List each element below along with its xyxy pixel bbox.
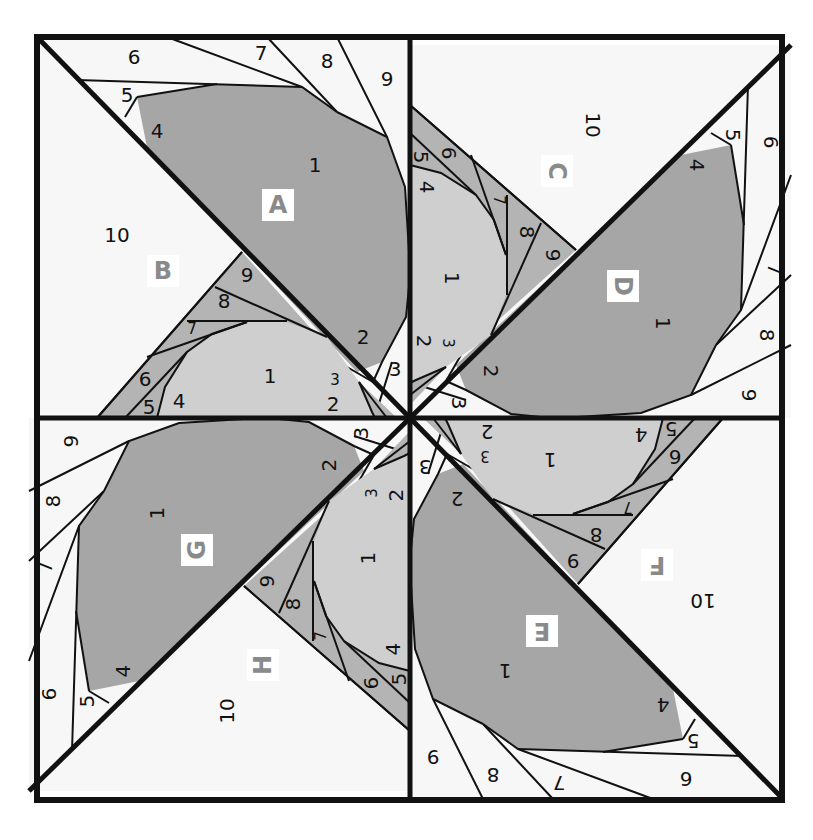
piece-number: 4 xyxy=(685,159,709,172)
piece-number: 2 xyxy=(384,489,408,502)
piece-number: 9 xyxy=(541,249,565,262)
section-letter: D xyxy=(609,276,637,296)
quadrant-top-left xyxy=(37,37,410,418)
section-letter: G xyxy=(183,540,211,560)
piece-number: 7 xyxy=(33,561,57,574)
piece-number: 8 xyxy=(41,495,65,508)
piece-number: 3 xyxy=(419,455,432,479)
piece-number: 9 xyxy=(737,389,761,402)
piece-number: 3 xyxy=(447,397,471,410)
piece-number: 7 xyxy=(255,41,268,65)
piece-number: 4 xyxy=(111,665,135,678)
piece-number: 9 xyxy=(241,263,254,287)
section-letter: B xyxy=(154,257,172,285)
piece-number: 1 xyxy=(651,317,675,330)
piece-number: 6 xyxy=(359,677,383,690)
piece-number: 7 xyxy=(763,263,787,276)
piece-number: 2 xyxy=(481,420,494,444)
piece-number: 7 xyxy=(312,631,330,641)
piece-number: 4 xyxy=(635,423,648,447)
piece-number: 9 xyxy=(381,67,394,91)
piece-number: 2 xyxy=(317,459,341,472)
piece-number: 5 xyxy=(721,129,745,142)
piece-number: 9 xyxy=(567,549,580,573)
piece-number: 1 xyxy=(309,153,322,177)
piece-number: 5 xyxy=(409,151,433,164)
piece-number: 7 xyxy=(490,195,508,205)
piece-number: 6 xyxy=(128,45,141,69)
piece-number: 8 xyxy=(321,49,334,73)
piece-number: 8 xyxy=(487,763,500,787)
piece-number: 1 xyxy=(499,659,512,683)
piece-number: 6 xyxy=(437,147,461,160)
piece-number: 1 xyxy=(544,448,557,472)
piece-number: 5 xyxy=(75,695,99,708)
section-letter: E xyxy=(534,617,550,645)
piece-number: 6 xyxy=(669,445,682,469)
piece-number: 10 xyxy=(581,112,605,137)
piece-number: 4 xyxy=(381,643,405,656)
piece-number: 8 xyxy=(218,289,231,313)
piece-number: 6 xyxy=(37,688,61,701)
piece-number: 4 xyxy=(173,389,186,413)
quadrant-bottom-right xyxy=(410,418,783,799)
piece-number: 1 xyxy=(264,364,277,388)
piece-number: 6 xyxy=(759,136,783,149)
piece-number: 10 xyxy=(104,223,129,247)
section-letter: A xyxy=(269,191,288,219)
piece-number: 3 xyxy=(389,357,402,381)
piece-number: 9 xyxy=(255,575,279,588)
piece-number: 5 xyxy=(121,83,134,107)
piece-number: 7 xyxy=(553,771,566,795)
piece-number: 4 xyxy=(151,119,164,143)
piece-number: 1 xyxy=(440,272,464,285)
section-letter: C xyxy=(543,162,571,180)
piece-number: 1 xyxy=(145,507,169,520)
piece-number: 7 xyxy=(187,320,197,338)
piece-number: 2 xyxy=(357,325,370,349)
piece-number: 3 xyxy=(439,338,457,348)
piece-number: 3 xyxy=(480,447,490,465)
piece-number: 5 xyxy=(143,395,156,419)
piece-number: 6 xyxy=(680,767,693,791)
piece-number: 4 xyxy=(657,693,670,717)
piece-number: 2 xyxy=(479,365,503,378)
piece-number: 2 xyxy=(412,335,436,348)
piece-number: 4 xyxy=(415,181,439,194)
piece-number: 8 xyxy=(515,226,539,239)
piece-number: 1 xyxy=(356,552,380,565)
piece-number: 6 xyxy=(139,367,152,391)
piece-number: 3 xyxy=(349,427,373,440)
quilt-diagram: A B 1 2 3 4 5 6 7 8 9 1 2 3 4 5 6 7 8 9 … xyxy=(0,0,813,840)
piece-number: 2 xyxy=(451,487,464,511)
piece-number: 5 xyxy=(387,673,411,686)
section-letter: H xyxy=(249,655,277,675)
piece-number: 8 xyxy=(281,598,305,611)
piece-number: 7 xyxy=(623,498,633,516)
piece-number: 10 xyxy=(690,589,715,613)
piece-number: 8 xyxy=(755,329,779,342)
piece-number: 5 xyxy=(665,417,678,441)
piece-number: 9 xyxy=(427,745,440,769)
piece-number: 9 xyxy=(59,435,83,448)
piece-number: 5 xyxy=(687,729,700,753)
piece-number: 8 xyxy=(590,523,603,547)
piece-number: 10 xyxy=(215,698,239,723)
piece-number: 3 xyxy=(363,488,381,498)
quadrant-bottom-left xyxy=(29,418,410,791)
quadrant-top-right xyxy=(410,45,791,418)
piece-number: 2 xyxy=(327,392,340,416)
section-letter: F xyxy=(649,551,665,579)
piece-number: 3 xyxy=(330,371,340,389)
